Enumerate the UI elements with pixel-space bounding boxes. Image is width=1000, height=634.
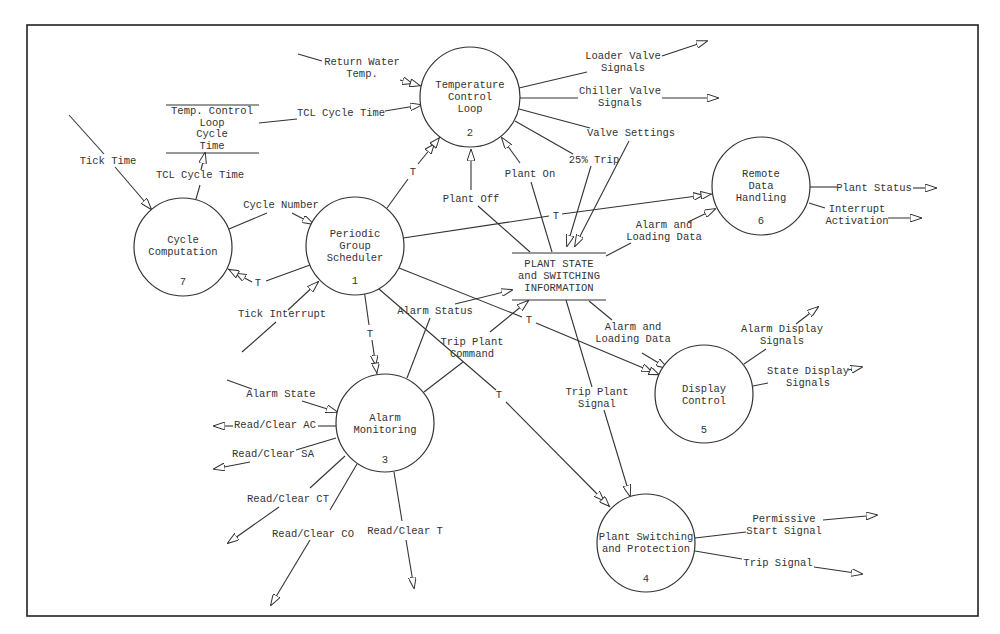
flow-label: Return Water [324,56,400,68]
flow-read-clear-sa: Read/Clear SA [214,438,336,469]
process-label: Plant Switching [599,531,694,543]
flow-label: Cycle Number [243,199,319,211]
process-alarm-monitoring[interactable]: Alarm Monitoring 3 [336,374,434,472]
process-label: Control [682,395,726,407]
flow-label: Tick Interrupt [238,308,326,320]
flow-t-scheduler-to-alarm: T [364,289,377,374]
flow-cycle-number: Cycle Number [229,199,319,229]
flow-state-display-signals: State Display Signals [753,365,862,389]
flow-interrupt-activation: Interrupt Activation [809,203,921,227]
flow-label: Loader Valve [585,50,661,62]
data-store-tcl-cycle-time[interactable]: Temp. Control Loop Cycle Time [166,105,259,153]
flow-alarm-state: Alarm State [227,380,337,412]
flow-label: T [526,314,532,326]
data-store-plant-state[interactable]: PLANT STATE and SWITCHING INFORMATION [512,253,606,300]
flow-label: TCL Cycle Time [297,107,385,119]
flow-label: T [367,328,373,340]
flow-t-scheduler-to-tcl: T [387,137,440,208]
store-label: Temp. Control [171,105,253,117]
flow-label: Plant Status [836,182,912,194]
flow-label: Signals [786,377,830,389]
process-number: 1 [352,275,358,287]
flow-label: Read/Clear SA [232,448,315,460]
flow-alarm-display-signals: Alarm Display Signals [741,307,823,364]
store-label: PLANT STATE [524,258,593,270]
flow-plant-status: Plant Status [810,182,936,194]
flow-label: Start Signal [746,525,822,537]
process-number: 7 [180,276,186,288]
process-number: 3 [382,454,388,466]
flow-read-clear-co: Read/Clear CO [271,464,357,605]
flow-permissive-start-signal: Permissive Start Signal [695,513,877,538]
flow-label: Activation [825,215,888,227]
process-label: Periodic [330,228,380,240]
process-label: Alarm [369,412,401,424]
flow-label: Signals [598,97,642,109]
process-label: Loop [457,103,482,115]
process-label: Display [682,383,726,395]
flow-label: TCL Cycle Time [156,169,244,181]
process-label: Scheduler [327,252,384,264]
flow-alarm-loading-to-display: Alarm and Loading Data [589,301,671,368]
flow-alarm-loading-to-remote: Alarm and Loading Data [606,209,715,256]
process-number: 4 [643,573,649,585]
flow-tick-interrupt: Tick Interrupt [238,282,326,352]
flow-label: Temp. [346,68,378,80]
flow-label: Read/Clear CT [247,493,329,505]
flow-label: T [410,166,416,178]
process-cycle-computation[interactable]: Cycle Computation 7 [134,198,232,296]
store-label: and SWITCHING [518,270,600,282]
flow-label: T [553,210,559,222]
flow-label: Signal [578,398,616,410]
flow-label: Command [450,348,494,360]
flow-tick-time: Tick Time [69,115,151,209]
process-plant-switching-protection[interactable]: Plant Switching and Protection 4 [597,494,695,592]
flow-tcl-cycle-time-to-tcl: TCL Cycle Time [259,105,421,123]
store-label: INFORMATION [524,282,593,294]
process-label: and Protection [602,543,690,555]
flow-label: Alarm and [636,219,693,231]
flow-label: Signals [601,62,645,74]
process-temperature-control-loop[interactable]: Temperature Control Loop 2 [420,47,520,147]
flow-return-water-temp: Return Water Temp. [298,54,421,86]
flow-label: Plant Off [443,193,500,205]
flow-label: Alarm State [246,388,315,400]
process-display-control[interactable]: Display Control 5 [655,345,753,443]
flow-label: Loading Data [626,231,702,243]
process-label: Monitoring [353,424,416,436]
process-label: Data [748,180,773,192]
flow-chiller-valve-signals: Chiller Valve Signals [520,85,718,109]
process-label: Computation [148,246,217,258]
flow-label: Alarm Display [741,323,823,335]
flow-label: Read/Clear CO [272,528,354,540]
process-number: 6 [758,215,764,227]
process-label: Cycle [167,234,199,246]
process-number: 5 [701,424,707,436]
process-number: 2 [467,127,473,139]
flow-label: Alarm and [605,321,662,333]
flow-label: Chiller Valve [579,85,661,97]
flow-read-clear-ac: Read/Clear AC [214,419,336,431]
flow-25-percent-trip: 25% Trip [515,121,619,246]
process-label: Handling [736,192,786,204]
process-periodic-group-scheduler[interactable]: Periodic Group Scheduler 1 [306,197,404,295]
flow-label: Permissive [752,513,815,525]
flow-label: T [255,277,261,289]
flow-plant-off: Plant Off [443,150,530,252]
flow-label: Signals [760,335,804,347]
process-label: Temperature [435,79,504,91]
flow-label: 25% Trip [569,154,619,166]
flow-label: T [496,389,502,401]
flow-loader-valve-signals: Loader Valve Signals [519,41,707,88]
process-remote-data-handling[interactable]: Remote Data Handling 6 [712,137,810,235]
flow-label: Alarm Status [397,305,473,317]
flow-trip-signal: Trip Signal [695,551,862,574]
flow-label: Read/Clear T [367,525,443,537]
process-label: Remote [742,168,780,180]
flow-label: Trip Plant [565,386,628,398]
flow-label: Trip Plant [440,336,503,348]
data-flow-diagram: Return Water Temp. TCL Cycle Time TCL Cy… [0,0,1000,634]
flow-label: Interrupt [829,203,886,215]
flow-label: Loading Data [595,333,671,345]
process-label: Control [448,91,492,103]
